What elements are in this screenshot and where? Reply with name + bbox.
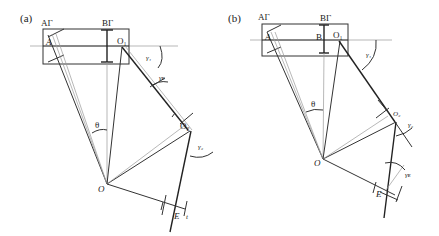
arm-tick-3 xyxy=(172,113,175,117)
label-theta: θ xyxy=(311,99,315,109)
label-B: B xyxy=(316,32,322,42)
line-A-O xyxy=(267,32,323,159)
a-tick-top xyxy=(48,29,64,37)
arm-O1-O2-thin xyxy=(125,46,192,130)
line-O-O2 xyxy=(323,122,396,159)
label-Br: BΓ xyxy=(320,13,331,23)
e-tick-2 xyxy=(380,192,398,200)
line-B-O xyxy=(323,53,324,159)
line-A-O-thin1 xyxy=(271,32,323,159)
label-gamma2: γ₂ xyxy=(408,121,414,129)
line-A-O-thin2 xyxy=(56,34,107,184)
e-tick-3 xyxy=(396,186,402,202)
panel-b: (b) AΓ A B BΓ O₁ O₂ xyxy=(228,12,414,218)
label-gammaE: γᴇ xyxy=(159,74,165,82)
panel-a: (a) xyxy=(20,12,213,232)
label-A: A xyxy=(45,37,52,47)
gamma2-arc xyxy=(190,152,213,157)
line-O-O2-thin xyxy=(323,116,388,159)
label-O2: O₂ xyxy=(393,110,401,118)
leg-O2-E xyxy=(384,122,396,218)
line-O1-O xyxy=(323,41,340,159)
line-O1-O xyxy=(107,47,122,184)
label-O2: O₂ xyxy=(180,121,190,131)
label-gamma2: γ₂ xyxy=(198,143,204,151)
theta-arc xyxy=(306,109,323,112)
panel-a-label: (a) xyxy=(20,12,33,25)
a-tick-top xyxy=(267,25,281,32)
label-Br: BΓ xyxy=(102,18,113,28)
arm-tick-2 xyxy=(378,100,389,113)
panel-b-label: (b) xyxy=(228,12,241,25)
label-E: E xyxy=(173,211,180,221)
label-A: A xyxy=(264,32,271,42)
label-O1: O₁ xyxy=(333,30,343,40)
line-A-O-thin2 xyxy=(275,32,323,159)
label-O: O xyxy=(314,158,321,168)
line-O-O2-thin xyxy=(107,126,184,184)
label-gamma1: γ₁ xyxy=(366,51,371,59)
line-O-O2 xyxy=(107,131,190,184)
label-E: E xyxy=(375,189,382,199)
label-gammaE: γᴇ xyxy=(405,171,411,179)
arm-O1-O2 xyxy=(122,47,188,130)
label-gamma1: γ₁ xyxy=(146,54,151,62)
label-Ar: AΓ xyxy=(41,18,53,28)
line-O-E xyxy=(107,184,185,209)
e-tick-1 xyxy=(161,202,163,210)
diagram-canvas: (a) xyxy=(0,0,439,236)
line-A-O xyxy=(48,35,107,184)
gammaE-arc xyxy=(385,162,405,170)
label-O: O xyxy=(98,184,105,194)
label-t: t xyxy=(186,213,189,221)
label-O1: O₁ xyxy=(117,36,127,46)
line-O-E xyxy=(323,159,395,195)
label-theta: θ xyxy=(95,120,99,130)
label-Ar: AΓ xyxy=(258,12,270,22)
gamma1-arc xyxy=(158,46,162,68)
line-A-O-thin1 xyxy=(52,34,107,184)
